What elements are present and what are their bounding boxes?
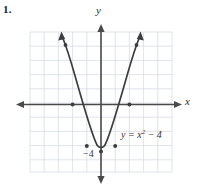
x-axis-label: x (185, 95, 190, 107)
x-axis (16, 101, 182, 108)
vertex-value-label: −4 (83, 148, 94, 159)
parabola-graph (0, 0, 202, 187)
equation-lhs: y = x (121, 129, 142, 140)
y-axis-label: y (96, 4, 101, 16)
equation-label: y = x2 − 4 (121, 129, 162, 140)
equation-rhs: − 4 (145, 129, 162, 140)
worksheet-problem-figure: 1. (0, 0, 202, 187)
